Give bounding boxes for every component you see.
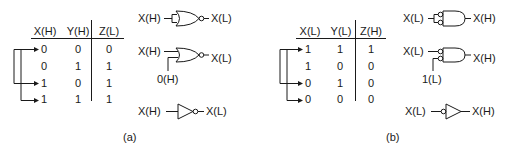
table-b-row-arrows (280, 47, 303, 103)
nor-gate-tied-low-icon (164, 48, 209, 71)
and-gate-bubbled-tied-high-icon (428, 48, 471, 71)
diagram-lines (0, 0, 506, 155)
nor-gate-tied-icon (164, 11, 209, 26)
inverter-gate-icon (166, 104, 204, 119)
inverter-bubbled-input-icon (431, 104, 470, 119)
table-a-row-arrows (14, 47, 39, 103)
and-gate-bubbled-tied-icon (428, 11, 471, 26)
